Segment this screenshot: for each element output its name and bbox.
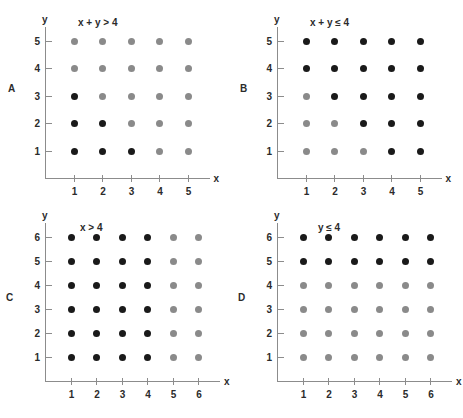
data-point-black-dots: [119, 330, 126, 337]
y-axis-tick-label: 4: [258, 281, 272, 291]
data-point-gray-dots: [195, 234, 202, 241]
x-axis-tick: [430, 378, 431, 385]
data-point-black-dots: [119, 354, 126, 361]
data-point-gray-dots: [185, 148, 192, 155]
y-axis-line: [45, 27, 46, 179]
x-axis-tick: [363, 175, 364, 182]
data-point-gray-dots: [195, 354, 202, 361]
x-axis-line: [45, 178, 210, 179]
y-axis-tick-label: 1: [26, 353, 40, 363]
y-axis-tick: [46, 309, 52, 310]
data-point-black-dots: [300, 258, 307, 265]
data-point-black-dots: [376, 258, 383, 265]
data-point-black-dots: [417, 38, 424, 45]
data-point-black-dots: [144, 258, 151, 265]
y-axis-tick: [46, 333, 52, 334]
data-point-gray-dots: [185, 120, 192, 127]
data-point-black-dots: [68, 282, 75, 289]
y-axis-label: y: [274, 211, 280, 221]
data-point-black-dots: [144, 282, 151, 289]
data-point-gray-dots: [99, 93, 106, 100]
y-axis-tick-label: 2: [258, 329, 272, 339]
panel-letter-label: D: [238, 293, 245, 303]
data-point-gray-dots: [99, 38, 106, 45]
data-point-gray-dots: [128, 65, 135, 72]
data-point-gray-dots: [170, 330, 177, 337]
data-point-black-dots: [351, 258, 358, 265]
data-point-gray-dots: [300, 330, 307, 337]
data-point-black-dots: [303, 38, 310, 45]
data-point-black-dots: [128, 148, 135, 155]
data-point-black-dots: [93, 306, 100, 313]
panel-c-plot-area: 123456123456yxx > 4C: [0, 209, 231, 418]
data-point-gray-dots: [376, 354, 383, 361]
data-point-gray-dots: [360, 148, 367, 155]
x-axis-tick-label: 4: [141, 390, 155, 400]
x-axis-label: x: [456, 377, 462, 387]
panel-letter-label: C: [6, 293, 13, 303]
y-axis-tick: [46, 41, 52, 42]
panel-c: 123456123456yxx > 4C: [0, 209, 231, 418]
panel-b: 1234512345yxx + y ≤ 4B: [232, 0, 463, 209]
data-point-black-dots: [388, 65, 395, 72]
data-point-black-dots: [402, 258, 409, 265]
x-axis-tick-label: 1: [65, 390, 79, 400]
data-point-black-dots: [388, 120, 395, 127]
x-axis-tick-label: 5: [167, 390, 181, 400]
data-point-gray-dots: [303, 120, 310, 127]
x-axis-tick: [71, 378, 72, 385]
data-point-black-dots: [119, 282, 126, 289]
x-axis-tick: [173, 378, 174, 385]
data-point-gray-dots: [376, 306, 383, 313]
data-point-gray-dots: [300, 282, 307, 289]
panel-letter-label: B: [240, 84, 247, 94]
data-point-black-dots: [360, 65, 367, 72]
data-point-black-dots: [68, 306, 75, 313]
y-axis-tick: [46, 96, 52, 97]
y-axis-tick: [278, 261, 284, 262]
x-axis-tick-label: 5: [182, 187, 196, 197]
x-axis-tick-label: 2: [322, 390, 336, 400]
x-axis-tick: [334, 175, 335, 182]
x-axis-tick: [379, 378, 380, 385]
data-point-black-dots: [71, 148, 78, 155]
data-point-black-dots: [331, 93, 338, 100]
data-point-gray-dots: [376, 282, 383, 289]
y-axis-tick-label: 5: [258, 257, 272, 267]
x-axis-tick: [74, 175, 75, 182]
y-axis-tick-label: 1: [258, 353, 272, 363]
data-point-gray-dots: [300, 354, 307, 361]
data-point-black-dots: [99, 148, 106, 155]
data-point-black-dots: [93, 282, 100, 289]
y-axis-tick-label: 4: [258, 64, 272, 74]
data-point-black-dots: [144, 354, 151, 361]
y-axis-tick-label: 4: [26, 64, 40, 74]
data-point-black-dots: [376, 234, 383, 241]
data-point-gray-dots: [156, 120, 163, 127]
y-axis-tick: [278, 357, 284, 358]
x-axis-tick: [420, 175, 421, 182]
data-point-black-dots: [325, 234, 332, 241]
x-axis-tick-label: 5: [399, 390, 413, 400]
y-axis-tick-label: 2: [26, 119, 40, 129]
x-axis-tick: [122, 378, 123, 385]
data-point-black-dots: [325, 258, 332, 265]
data-point-gray-dots: [170, 234, 177, 241]
y-axis-tick-label: 2: [258, 119, 272, 129]
data-point-gray-dots: [170, 354, 177, 361]
data-point-black-dots: [417, 65, 424, 72]
data-point-black-dots: [144, 306, 151, 313]
data-point-black-dots: [388, 93, 395, 100]
y-axis-tick: [46, 151, 52, 152]
y-axis-line: [277, 27, 278, 179]
panel-b-plot-area: 1234512345yxx + y ≤ 4B: [232, 0, 463, 209]
x-axis-tick-label: 3: [357, 187, 371, 197]
data-point-gray-dots: [156, 38, 163, 45]
data-point-black-dots: [417, 120, 424, 127]
data-point-black-dots: [99, 120, 106, 127]
x-axis-tick-label: 5: [414, 187, 428, 197]
x-axis-tick-label: 1: [68, 187, 82, 197]
x-axis-line: [277, 178, 442, 179]
data-point-gray-dots: [195, 306, 202, 313]
data-point-black-dots: [93, 354, 100, 361]
